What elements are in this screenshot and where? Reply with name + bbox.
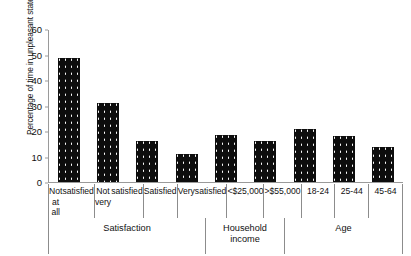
x-axis-line	[48, 182, 403, 183]
bar	[136, 141, 158, 182]
y-axis-tick-mark	[45, 132, 48, 133]
bar	[176, 154, 198, 182]
y-axis-tick-mark	[45, 106, 48, 107]
bar	[97, 103, 119, 182]
bar-cell	[167, 30, 206, 182]
group-label-line: Household	[223, 223, 267, 234]
group-label: Age	[285, 218, 402, 254]
category-label-table: Not at allsatisfiedNot verysatisfiedSati…	[48, 184, 403, 254]
category-label-line: $55,000	[270, 186, 301, 197]
group-label-line: income	[223, 234, 267, 245]
category-label: >$55,000	[264, 184, 301, 218]
bar-cell	[364, 30, 403, 182]
category-label-line: 25-44	[341, 186, 363, 197]
category-label: <$25,000	[227, 184, 264, 218]
category-label-line: Very	[178, 186, 195, 197]
category-label-line: Not at all	[49, 186, 62, 218]
category-label: Satisfied	[144, 184, 178, 218]
category-label: Not verysatisfied	[95, 184, 144, 218]
group-label-line: Age	[335, 223, 351, 234]
bar	[215, 135, 237, 182]
bar-series	[49, 30, 403, 182]
category-label-line: 45-64	[375, 186, 397, 197]
bar	[333, 136, 355, 182]
category-row: Not at allsatisfiedNot verysatisfiedSati…	[49, 184, 402, 218]
category-label-line: satisfied	[195, 186, 227, 197]
y-axis-tick-mark	[45, 157, 48, 158]
bar-chart: Percentage of time in unpleasant state 0…	[0, 0, 411, 256]
category-label: Not at allsatisfied	[49, 184, 95, 218]
bar-cell	[88, 30, 127, 182]
y-axis-tick-mark	[45, 81, 48, 82]
plot-area: 0102030405060	[48, 30, 403, 183]
group-label: Satisfaction	[49, 218, 206, 254]
y-axis-tick-mark	[45, 30, 48, 31]
bar	[254, 141, 276, 182]
group-label: Householdincome	[206, 218, 285, 254]
bar-cell	[206, 30, 245, 182]
bar-cell	[128, 30, 167, 182]
category-label-line: 18-24	[307, 186, 329, 197]
category-label: 25-44	[335, 184, 369, 218]
category-label-line: $25,000	[232, 186, 263, 197]
category-label: Verysatisfied	[178, 184, 228, 218]
bar	[372, 147, 394, 182]
bar-cell	[285, 30, 324, 182]
bar-cell	[324, 30, 363, 182]
category-label-line: Not very	[95, 186, 111, 207]
category-label: 18-24	[302, 184, 336, 218]
bar-cell	[49, 30, 88, 182]
y-axis-tick-mark	[45, 55, 48, 56]
category-label-line: satisfied	[111, 186, 143, 197]
bar-cell	[246, 30, 285, 182]
bar	[294, 129, 316, 182]
category-label-line: Satisfied	[144, 186, 177, 197]
bar	[58, 58, 80, 182]
category-label: 45-64	[369, 184, 402, 218]
category-label-line: satisfied	[62, 186, 94, 197]
group-row: SatisfactionHouseholdincomeAge	[49, 218, 402, 254]
group-label-line: Satisfaction	[103, 223, 151, 234]
